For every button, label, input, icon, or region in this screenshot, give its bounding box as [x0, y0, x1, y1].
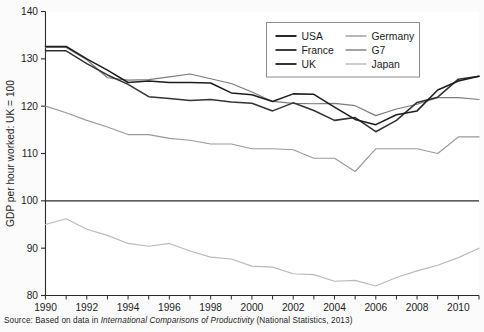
legend-label-japan: Japan	[372, 59, 401, 70]
y-tick-label: 100	[21, 195, 38, 206]
y-tick-label: 140	[21, 6, 38, 17]
x-axis-tick-labels: 1990199219941996199820002002200420062008…	[34, 302, 470, 313]
x-tick-label: 1992	[75, 302, 98, 313]
source-caption: Source: Based on data in International C…	[4, 316, 480, 325]
chart-legend: USAGermanyFranceG7UKJapan	[267, 23, 420, 78]
y-axis-label: GDP per hour worked: UK = 100	[5, 80, 16, 227]
x-tick-label: 2006	[364, 302, 387, 313]
x-tick-label: 2000	[241, 302, 264, 313]
legend-label-usa: USA	[302, 31, 323, 42]
y-tick-label: 120	[21, 101, 38, 112]
legend-label-g7: G7	[372, 45, 386, 56]
x-tick-label: 1994	[117, 302, 140, 313]
caption-suffix: (National Statistics, 2013)	[254, 316, 352, 325]
caption-prefix: Source: Based on data in	[4, 316, 101, 325]
legend-label-france: France	[302, 45, 335, 56]
caption-publication-title: International Comparisons of Productivit…	[101, 316, 254, 325]
x-tick-label: 2002	[282, 302, 305, 313]
y-axis-tick-labels: 8090100110120130140	[21, 6, 38, 301]
y-tick-label: 130	[21, 53, 38, 64]
x-tick-label: 1998	[199, 302, 222, 313]
y-tick-label: 110	[22, 148, 39, 159]
legend-label-uk: UK	[302, 59, 317, 70]
y-tick-label: 80	[27, 290, 39, 301]
y-tick-label: 90	[27, 243, 39, 254]
y-axis-title: GDP per hour worked: UK = 100	[5, 80, 16, 227]
x-tick-label: 1996	[158, 302, 181, 313]
line-chart: GDP per hour worked: UK = 100 8090100110…	[0, 0, 484, 332]
x-tick-label: 2004	[323, 302, 346, 313]
x-tick-label: 2008	[406, 302, 429, 313]
x-tick-label: 2010	[447, 302, 470, 313]
figure-container: GDP per hour worked: UK = 100 8090100110…	[0, 0, 484, 332]
legend-label-germany: Germany	[372, 31, 416, 42]
x-tick-label: 1990	[34, 302, 57, 313]
